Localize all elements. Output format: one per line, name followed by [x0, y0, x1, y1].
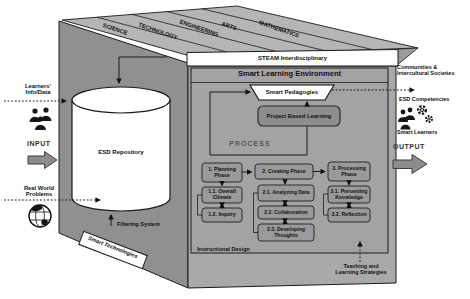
real-world-problems-label: Real World Problems: [15, 185, 63, 198]
output-label: OUTPUT: [393, 143, 425, 151]
sle-title: Smart Learning Environment: [191, 70, 388, 78]
steam-bar-label: STEAM Interdisciplinary: [187, 55, 398, 62]
phase-developing-thoughts-label: 2.3. Developing Thoughts: [258, 224, 314, 241]
pbl-label: Project Based Learning: [258, 106, 340, 126]
gear-icon: [418, 106, 426, 114]
phase-collaboration-label: 2.2. Collaboration: [258, 206, 314, 219]
process-label: PROCESS: [224, 140, 276, 148]
phase-overall-climate-label: 1.1. Overall Climate: [202, 187, 242, 203]
instructional-design-label: Instructional Design: [197, 246, 250, 252]
phase-planning-label: 1. Planning Phase: [202, 163, 242, 182]
phase-inquiry-label: 1.2. Inquiry: [202, 208, 242, 222]
people-icon: [398, 108, 415, 130]
esd-competencies-label: ESD Competencies: [399, 96, 449, 102]
globe-icon: [29, 205, 51, 227]
phase-reflection-label: 3.2. Reflection: [328, 208, 370, 222]
esd-repository-label: ESD Repository: [91, 149, 151, 156]
smart-pedagogies-label: Smart Pedagogies: [252, 89, 332, 96]
learners-info-label: Learners' Info/Data: [14, 83, 62, 96]
smart-learners-label: Smart Learners: [397, 129, 437, 135]
output-arrow: [393, 155, 427, 174]
steam-sle-diagram: SCIENCE TECHNOLOGY ENGINEERING ARTS MATH…: [0, 0, 470, 299]
gear-icon: [426, 116, 432, 122]
cylinder-top: [72, 87, 170, 113]
input-label: INPUT: [27, 140, 51, 148]
learners-people-icon: [30, 107, 52, 130]
communities-label: Communities & Intercultural Societies: [397, 64, 467, 76]
phase-analyzing-data-label: 2.1. Analyzing Data: [258, 185, 314, 201]
phase-presenting-knowledge-label: 3.1. Presenting Knowledge: [328, 186, 370, 203]
phase-processing-label: 3. Processing Phase: [328, 162, 370, 181]
input-arrow: [28, 152, 57, 169]
teaching-strategies-label: Teaching and Learning Strategies: [330, 263, 392, 275]
filtering-system-label: Filtering System: [117, 221, 167, 227]
phase-creating-label: 2. Creating Phase: [255, 164, 313, 179]
smart-learners-icon: [398, 106, 432, 129]
